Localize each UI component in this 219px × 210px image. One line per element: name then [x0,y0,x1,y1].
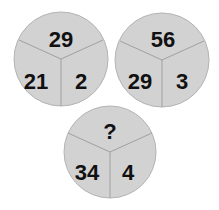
circle-2: 56 29 3 [115,13,209,107]
circle-3-top-question-mark: ? [103,119,116,144]
circle-1-top: 29 [49,27,73,52]
circle-3: ? 34 4 [64,106,156,198]
circle-1-left: 21 [24,69,48,94]
circle-1: 29 21 2 [14,12,108,106]
circle-2-left: 29 [128,69,152,94]
circle-2-top: 56 [151,27,175,52]
puzzle-figure: 29 21 2 56 29 3 ? 34 4 [0,0,219,210]
circle-3-left: 34 [75,160,100,185]
circle-3-right: 4 [122,160,135,185]
circle-1-right: 2 [75,69,87,94]
circle-2-right: 3 [176,69,188,94]
